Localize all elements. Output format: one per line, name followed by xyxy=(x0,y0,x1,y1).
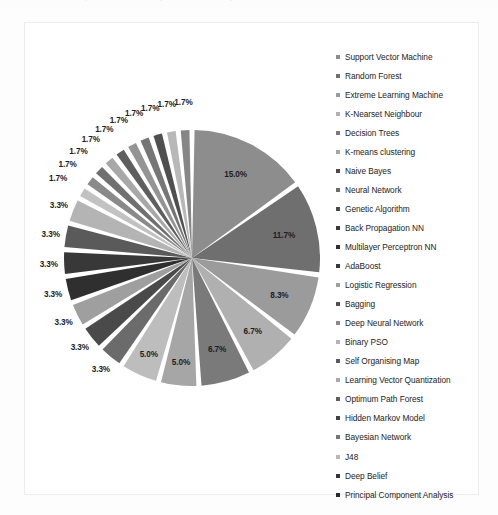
legend-item[interactable]: Learning Vector Quantization xyxy=(335,371,485,390)
legend-item-label: J48 xyxy=(345,452,358,462)
pie-slice-value-label: 3.3% xyxy=(54,317,72,326)
chart-legend: Support Vector MachineRandom ForestExtre… xyxy=(335,47,485,504)
legend-item[interactable]: K-Nearset Neighbour xyxy=(335,104,485,123)
legend-item-label: AdaBoost xyxy=(345,261,381,271)
legend-item-label: Learning Vector Quantization xyxy=(345,375,451,385)
pie-slice-value-label: 3.3% xyxy=(44,289,62,298)
legend-swatch-icon xyxy=(336,283,340,287)
legend-swatch-icon xyxy=(336,226,340,230)
legend-item-label: K-means clustering xyxy=(345,147,415,157)
legend-item[interactable]: Decision Trees xyxy=(335,123,485,142)
pie-slice-value-label: 5.0% xyxy=(140,349,158,358)
legend-item-label: Decision Trees xyxy=(345,128,399,138)
legend-swatch-icon xyxy=(336,302,340,306)
legend-item-label: Back Propagation NN xyxy=(345,223,424,233)
legend-swatch-icon xyxy=(336,474,340,478)
pie-slice-value-label: 3.3% xyxy=(50,200,68,209)
legend-item[interactable]: AdaBoost xyxy=(335,257,485,276)
legend-swatch-icon xyxy=(336,112,340,116)
cropped-page-top-sliver: . . . xyxy=(0,0,498,9)
legend-item-label: Principal Component Analysis xyxy=(345,490,453,500)
legend-item-label: Extreme Learning Machine xyxy=(345,90,443,100)
pie-slice-value-label: 8.3% xyxy=(270,290,288,299)
legend-item[interactable]: Hidden Markov Model xyxy=(335,409,485,428)
legend-swatch-icon xyxy=(336,455,340,459)
legend-item-label: Bagging xyxy=(345,299,375,309)
legend-item-label: Naive Bayes xyxy=(345,166,391,176)
legend-swatch-icon xyxy=(336,397,340,401)
legend-swatch-icon xyxy=(336,321,340,325)
legend-swatch-icon xyxy=(336,245,340,249)
legend-swatch-icon xyxy=(336,55,340,59)
legend-item-label: Self Organising Map xyxy=(345,356,419,366)
legend-swatch-icon xyxy=(336,340,340,344)
legend-item[interactable]: Deep Neural Network xyxy=(335,314,485,333)
legend-item-label: Deep Belief xyxy=(345,471,387,481)
pie-slice-value-label: 1.7% xyxy=(95,124,113,133)
legend-item[interactable]: Neural Network xyxy=(335,180,485,199)
pie-slice-value-label: 1.7% xyxy=(158,99,176,108)
legend-item[interactable]: K-means clustering xyxy=(335,142,485,161)
pie-slice-value-label: 1.7% xyxy=(49,173,67,182)
legend-item-label: Logistic Regression xyxy=(345,280,416,290)
pie-slice-value-label: 6.7% xyxy=(244,326,262,335)
legend-swatch-icon xyxy=(336,264,340,268)
pie-slice-value-label: 3.3% xyxy=(71,343,89,352)
legend-item[interactable]: Support Vector Machine xyxy=(335,47,485,66)
legend-item[interactable]: Deep Belief xyxy=(335,466,485,485)
pie-slice-group xyxy=(64,130,320,386)
pie-slice-value-label: 6.7% xyxy=(208,345,226,354)
pie-slice-value-label: 1.7% xyxy=(69,146,87,155)
legend-item-label: Bayesian Network xyxy=(345,432,411,442)
legend-swatch-icon xyxy=(336,359,340,363)
legend-item-label: Support Vector Machine xyxy=(345,52,432,62)
pie-slice-value-label: 3.3% xyxy=(40,259,58,268)
legend-item-label: Optimum Path Forest xyxy=(345,394,423,404)
legend-item[interactable]: Binary PSO xyxy=(335,333,485,352)
legend-item[interactable]: Back Propagation NN xyxy=(335,218,485,237)
legend-item-label: Multilayer Perceptron NN xyxy=(345,242,436,252)
legend-item[interactable]: Naive Bayes xyxy=(335,161,485,180)
legend-swatch-icon xyxy=(336,74,340,78)
legend-swatch-icon xyxy=(336,131,340,135)
legend-item[interactable]: J48 xyxy=(335,447,485,466)
pie-slice-value-label: 1.7% xyxy=(58,159,76,168)
legend-swatch-icon xyxy=(336,93,340,97)
pie-slice-value-label: 15.0% xyxy=(224,169,247,178)
legend-swatch-icon xyxy=(336,416,340,420)
legend-swatch-icon xyxy=(336,207,340,211)
legend-item[interactable]: Extreme Learning Machine xyxy=(335,85,485,104)
pie-slice-value-label: 3.3% xyxy=(42,229,60,238)
legend-item-label: Random Forest xyxy=(345,71,402,81)
legend-item[interactable]: Self Organising Map xyxy=(335,352,485,371)
legend-swatch-icon xyxy=(336,150,340,154)
legend-item-label: Hidden Markov Model xyxy=(345,413,425,423)
legend-swatch-icon xyxy=(336,378,340,382)
legend-item-label: Genetic Algorithm xyxy=(345,204,410,214)
legend-item[interactable]: Bagging xyxy=(335,295,485,314)
legend-swatch-icon xyxy=(336,435,340,439)
legend-item[interactable]: Genetic Algorithm xyxy=(335,199,485,218)
legend-item-label: K-Nearset Neighbour xyxy=(345,109,422,119)
legend-item-label: Binary PSO xyxy=(345,337,388,347)
pie-slice-value-label: 1.7% xyxy=(174,98,192,107)
legend-item[interactable]: Optimum Path Forest xyxy=(335,390,485,409)
legend-item[interactable]: Multilayer Perceptron NN xyxy=(335,237,485,256)
legend-swatch-icon xyxy=(336,169,340,173)
legend-item[interactable]: Principal Component Analysis xyxy=(335,485,485,504)
legend-swatch-icon xyxy=(336,188,340,192)
legend-item-label: Neural Network xyxy=(345,185,401,195)
pie-slice-value-label: 5.0% xyxy=(172,358,190,367)
pie-slice-value-label: 1.7% xyxy=(82,135,100,144)
legend-item[interactable]: Random Forest xyxy=(335,66,485,85)
pie-chart-svg xyxy=(25,23,355,496)
pie-chart: 15.0%11.7%8.3%6.7%6.7%5.0%5.0%3.3%3.3%3.… xyxy=(25,23,355,496)
legend-swatch-icon xyxy=(336,493,340,497)
pie-slice-value-label: 3.3% xyxy=(92,364,110,373)
pie-slice-value-label: 11.7% xyxy=(273,231,295,240)
chart-frame: 15.0%11.7%8.3%6.7%6.7%5.0%5.0%3.3%3.3%3.… xyxy=(24,22,479,495)
legend-item[interactable]: Logistic Regression xyxy=(335,276,485,295)
legend-item[interactable]: Bayesian Network xyxy=(335,428,485,447)
legend-item-label: Deep Neural Network xyxy=(345,318,423,328)
